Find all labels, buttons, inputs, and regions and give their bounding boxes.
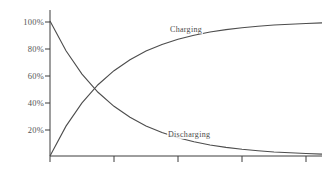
y-tick-label-40: 40% [8, 98, 44, 108]
y-tick-label-60: 60% [8, 71, 44, 81]
y-tick-label-20: 20% [8, 125, 44, 135]
chart-container: 100% 80% 60% 40% 20% Charging Dischargin… [0, 0, 332, 187]
y-axis-ticks [45, 22, 50, 130]
discharging-label: Discharging [167, 130, 211, 139]
charging-label: Charging [169, 25, 203, 34]
y-tick-label-80: 80% [8, 44, 44, 54]
y-tick-label-100: 100% [8, 17, 44, 27]
x-axis-ticks [50, 156, 306, 162]
chart-plot-area [0, 0, 332, 187]
